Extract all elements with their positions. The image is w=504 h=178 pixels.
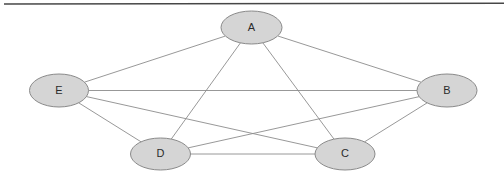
graph-edge	[79, 103, 141, 142]
node-ellipse[interactable]	[417, 74, 477, 107]
graph-edge	[86, 97, 317, 148]
graph-svg: ABCDE	[0, 0, 504, 178]
top-rule-layer	[4, 3, 504, 4]
node-ellipse[interactable]	[315, 138, 375, 170]
node-ellipse[interactable]	[30, 74, 89, 107]
diagram-canvas: ABCDE	[0, 0, 504, 178]
edge-layer	[79, 36, 427, 154]
graph-node-c[interactable]: C	[315, 138, 375, 170]
graph-node-b[interactable]: B	[417, 74, 477, 107]
graph-edge	[188, 97, 419, 148]
graph-node-e[interactable]: E	[30, 74, 89, 107]
graph-edge	[278, 36, 421, 82]
top-rule	[4, 3, 504, 4]
graph-node-a[interactable]: A	[221, 11, 282, 44]
graph-node-d[interactable]: D	[131, 138, 191, 170]
graph-edge	[263, 43, 334, 139]
node-ellipse[interactable]	[221, 11, 282, 44]
node-ellipse[interactable]	[131, 138, 191, 170]
graph-edge	[365, 103, 428, 142]
graph-edge	[171, 43, 240, 139]
graph-edge	[84, 36, 225, 82]
